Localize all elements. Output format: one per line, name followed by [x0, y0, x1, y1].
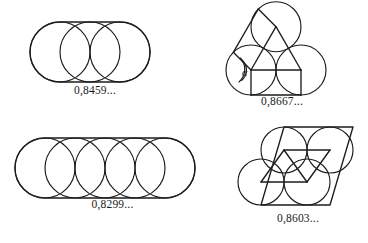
figure-three-in-a-row-stadium: 0,8459...: [0, 0, 190, 118]
four-in-rhombus-diagram: [228, 120, 368, 243]
caption-three-in-a-row-stadium: 0,8459...: [0, 84, 190, 96]
centre-line-right-diagonal: [307, 150, 330, 182]
centre-link-top-left: [251, 27, 276, 70]
centre-link-top-right: [276, 27, 301, 70]
centre-line-left-diagonal: [261, 150, 284, 182]
top-chord: [258, 9, 276, 27]
centre-line-cross-diagonal: [284, 150, 307, 182]
caption-four-in-a-row-stadium: 0,8299...: [0, 198, 225, 210]
figure-three-in-triangle: α 0,8667...: [196, 0, 368, 118]
three-in-a-row-diagram: [0, 0, 190, 118]
caption-four-in-rhombus: 0,8603...: [228, 212, 368, 224]
figure-four-in-rhombus: 0,8603...: [228, 120, 368, 243]
rhombus-outline: [261, 127, 353, 205]
four-in-a-row-diagram: [0, 120, 225, 243]
caption-three-in-triangle: 0,8667...: [196, 95, 368, 107]
figure-sheet: 0,8459...: [0, 0, 368, 243]
figure-four-in-a-row-stadium: 0,8299...: [0, 120, 225, 243]
angle-alpha-label: α: [242, 67, 248, 78]
